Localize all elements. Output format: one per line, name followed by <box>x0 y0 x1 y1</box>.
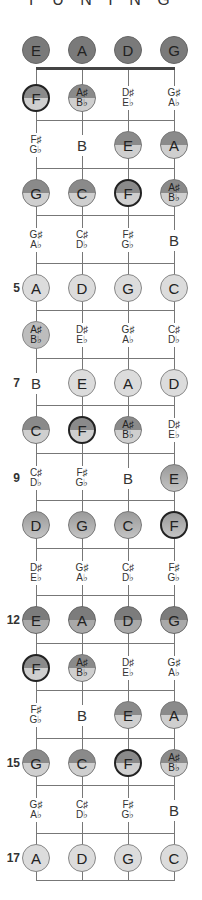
note-cell: G♯A♭ <box>158 82 190 114</box>
fret-line <box>36 310 175 311</box>
note-name: E <box>123 138 133 153</box>
note-name: F <box>169 518 178 533</box>
note-cell: G <box>112 842 144 874</box>
note-marker: C <box>160 844 188 872</box>
note-marker: G <box>22 749 50 777</box>
note-cell: B <box>158 794 190 826</box>
note-name: A♭ <box>30 810 43 820</box>
note-marker: A <box>68 36 96 64</box>
note-cell: B <box>66 699 98 731</box>
note-cell: B <box>20 367 52 399</box>
note-label: G♯A♭ <box>30 798 43 822</box>
note-cell: C <box>66 177 98 209</box>
note-marker: E <box>114 701 142 729</box>
note-marker: E <box>68 369 96 397</box>
note-name: B♭ <box>76 668 88 678</box>
note-name: C <box>77 186 88 201</box>
note-cell: G <box>112 272 144 304</box>
note-marker: C <box>160 274 188 302</box>
note-label: F♯G♭ <box>30 703 43 727</box>
note-name: G♭ <box>168 573 181 583</box>
note-name: C <box>169 851 180 866</box>
note-name: E <box>31 613 41 628</box>
note-marker: A♯B♭ <box>68 654 96 682</box>
note-cell: G♯A♭ <box>66 557 98 589</box>
note-label: C♯D♭ <box>30 466 42 490</box>
note-cell: D <box>112 604 144 636</box>
note-cell: D <box>112 34 144 66</box>
note-name: G <box>168 613 180 628</box>
note-cell: A♯B♭ <box>20 319 52 351</box>
note-cell: D♯E♭ <box>66 319 98 351</box>
note-cell: F <box>112 177 144 209</box>
note-cell: A <box>66 604 98 636</box>
note-name: A♭ <box>30 240 43 250</box>
note-cell: G♯A♭ <box>158 652 190 684</box>
note-name: C <box>31 423 42 438</box>
note-label: G♯A♭ <box>168 86 181 110</box>
note-name: D <box>123 613 134 628</box>
note-label: B <box>169 230 179 251</box>
note-cell: C <box>112 509 144 541</box>
note-name: E <box>77 376 87 391</box>
note-cell: C <box>158 272 190 304</box>
note-name: G <box>122 851 134 866</box>
note-name: C <box>169 281 180 296</box>
note-cell: C♯D♭ <box>112 557 144 589</box>
note-label: F♯G♭ <box>122 798 135 822</box>
note-label: C♯D♭ <box>122 561 134 585</box>
note-cell: C♯D♭ <box>20 462 52 494</box>
note-cell: A♯B♭ <box>66 82 98 114</box>
note-cell: F <box>158 509 190 541</box>
note-marker: F <box>22 84 50 112</box>
note-marker: D <box>68 844 96 872</box>
note-name: B <box>123 470 133 487</box>
note-name: D♭ <box>76 810 88 820</box>
note-cell: F♯G♭ <box>66 462 98 494</box>
note-cell: C♯D♭ <box>66 224 98 256</box>
note-name: E <box>169 471 179 486</box>
note-marker: A♯B♭ <box>160 749 188 777</box>
fret-line <box>36 263 175 264</box>
note-cell: G <box>20 177 52 209</box>
note-name: E♭ <box>168 430 180 440</box>
note-name: D <box>31 518 42 533</box>
note-name: G♭ <box>76 478 89 488</box>
note-name: A <box>31 281 41 296</box>
note-label: C♯D♭ <box>76 228 88 252</box>
note-cell: G♯A♭ <box>112 319 144 351</box>
note-cell: D♯E♭ <box>112 82 144 114</box>
note-name: G <box>76 518 88 533</box>
note-cell: E <box>66 367 98 399</box>
note-cell: A♯B♭ <box>66 652 98 684</box>
note-label: D♯E♭ <box>168 418 180 442</box>
note-name: B <box>169 802 179 819</box>
note-marker: F <box>114 179 142 207</box>
note-cell: A♯B♭ <box>112 414 144 446</box>
note-name: A <box>77 613 87 628</box>
note-cell: F♯G♭ <box>158 557 190 589</box>
note-name: D <box>123 43 134 58</box>
note-label: B <box>77 135 87 156</box>
note-marker: E <box>114 131 142 159</box>
note-label: G♯A♭ <box>168 656 181 680</box>
fret-number: 12 <box>0 613 20 627</box>
fret-line <box>36 643 175 644</box>
note-marker: A♯B♭ <box>22 321 50 349</box>
note-marker: F <box>22 654 50 682</box>
note-label: F♯G♭ <box>76 466 89 490</box>
note-marker: F <box>160 511 188 539</box>
note-cell: D <box>66 842 98 874</box>
note-name: G♭ <box>30 145 43 155</box>
note-name: B <box>77 137 87 154</box>
fret-number: 9 <box>0 471 20 485</box>
note-name: G♭ <box>30 715 43 725</box>
note-cell: C♯D♭ <box>66 794 98 826</box>
fret-line <box>36 453 175 454</box>
note-name: A♭ <box>168 668 181 678</box>
note-name: E <box>123 708 133 723</box>
note-name: G <box>122 281 134 296</box>
fret-line <box>36 738 175 739</box>
note-cell: D♯E♭ <box>112 652 144 684</box>
note-label: B <box>31 373 41 394</box>
